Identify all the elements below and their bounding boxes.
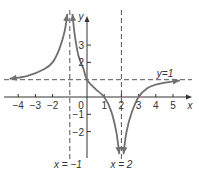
x-axis-arrow-icon xyxy=(186,95,192,100)
x-tick-label: −4 xyxy=(12,100,24,111)
x-tick-label: −3 xyxy=(30,100,42,111)
axes xyxy=(4,16,192,158)
horizontal-asymptote-label: y=1 xyxy=(156,68,173,79)
y-tick-label: −2 xyxy=(73,127,85,138)
x-tick-label: 5 xyxy=(170,100,176,111)
vertical-asymptote-label: x = −1 xyxy=(53,159,82,170)
y-tick-label: −1 xyxy=(73,109,85,120)
x-tick-label: 3 xyxy=(136,100,142,111)
x-axis-label: x xyxy=(187,100,194,111)
curve-branch-right xyxy=(123,81,179,155)
rational-function-graph: −4−3−2012345−2−123xyy=1x = −1x = 2 xyxy=(0,0,199,173)
y-axis-arrow-icon xyxy=(85,16,90,22)
y-axis-label: y xyxy=(78,11,85,22)
x-tick-label: 4 xyxy=(153,100,159,111)
y-tick-label: 3 xyxy=(78,40,84,51)
labels: −4−3−2012345−2−123xyy=1x = −1x = 2 xyxy=(12,11,193,170)
vertical-asymptote-label: x = 2 xyxy=(109,159,132,170)
x-tick-label: −2 xyxy=(47,100,59,111)
curves xyxy=(10,14,180,154)
y-tick-label: 2 xyxy=(78,57,84,68)
x-tick-label: 2 xyxy=(119,100,125,111)
x-tick-label: 1 xyxy=(101,100,107,111)
asymptotes xyxy=(4,10,192,160)
curve-branch-left xyxy=(10,14,68,79)
